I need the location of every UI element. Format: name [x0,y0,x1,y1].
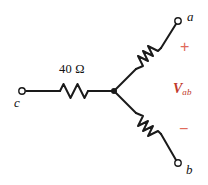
branch-a [114,18,181,91]
voltage-subscript: ab [182,87,191,97]
branch-c [19,84,114,98]
resistor-value-label: 40 Ω [59,63,85,76]
circuit-diagram: a b c 40 Ω Vab + − [0,0,208,185]
terminal-node-c [19,88,25,94]
voltage-label: Vab [173,82,192,97]
wire-b-upper [114,91,136,113]
resistor-a-zigzag [136,46,161,69]
branch-b [114,91,181,166]
terminal-label-a: a [187,10,194,23]
terminal-label-c: c [14,96,20,109]
wire-b-lower [161,134,176,160]
resistor-c-zigzag [60,84,88,98]
polarity-plus-sign: + [180,39,189,55]
terminal-node-b [175,160,181,166]
wire-a-upper [161,24,176,48]
polarity-minus-sign: − [179,121,188,137]
resistor-b-zigzag [136,113,161,136]
terminal-label-b: b [186,163,193,176]
voltage-symbol: V [173,81,182,96]
junction-dot [111,88,117,94]
wire-a-lower [114,69,136,91]
terminal-node-a [175,18,181,24]
